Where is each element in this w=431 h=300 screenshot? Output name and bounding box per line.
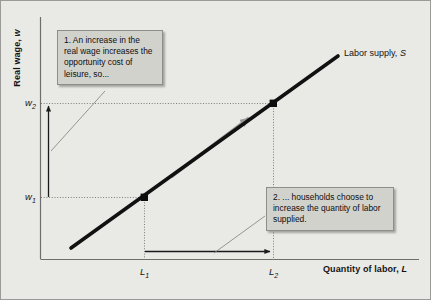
tick-label-w2-sub: 2 xyxy=(32,103,36,110)
x-axis-title-variable: L xyxy=(401,264,407,274)
figure-container: Real wage, w Quantity of labor, L w2 w1 … xyxy=(0,0,431,300)
x-axis-title-text: Quantity of labor, xyxy=(323,264,401,274)
curve-label-variable: S xyxy=(400,48,406,58)
equilibrium-point-2 xyxy=(270,100,277,107)
y-axis-title-text: Real wage, xyxy=(12,37,22,87)
tick-label-w1-base: w xyxy=(25,191,32,202)
x-axis-title: Quantity of labor, L xyxy=(323,264,407,274)
tick-label-L1-sub: 1 xyxy=(145,272,149,279)
callout-box-1: 1. An increase in the real wage increase… xyxy=(57,30,163,85)
tick-label-w1-sub: 1 xyxy=(32,197,36,204)
tick-label-w2-base: w xyxy=(25,97,32,108)
y-axis-title-variable: w xyxy=(12,29,22,36)
equilibrium-point-1 xyxy=(141,194,148,201)
labor-supply-curve-label: Labor supply, S xyxy=(344,48,406,58)
tick-label-w2: w2 xyxy=(25,97,36,110)
tick-label-L1: L1 xyxy=(140,266,149,279)
tick-label-w1: w1 xyxy=(25,191,36,204)
callout-1-leader-line xyxy=(51,91,105,151)
callout-2-leader-line xyxy=(214,216,265,253)
tick-label-L2: L2 xyxy=(269,266,278,279)
curve-label-text: Labor supply, xyxy=(344,48,400,58)
callout-box-2: 2. ... households choose to increase the… xyxy=(266,187,394,231)
y-axis-title: Real wage, w xyxy=(12,18,22,98)
tick-label-L2-sub: 2 xyxy=(274,272,278,279)
